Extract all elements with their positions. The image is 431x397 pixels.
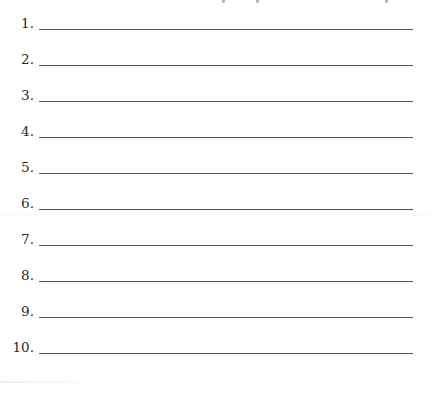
answer-blank-line[interactable] — [39, 245, 413, 246]
clipped-glyph — [222, 0, 225, 3]
answer-blank-line[interactable] — [39, 209, 413, 210]
answer-row: 9. — [0, 299, 431, 319]
answer-blank-line[interactable] — [39, 353, 413, 354]
answer-blank-line[interactable] — [39, 65, 413, 66]
item-number: 9. — [21, 303, 34, 319]
item-number: 10. — [13, 339, 34, 355]
item-number: 2. — [21, 51, 34, 67]
answer-row: 10. — [0, 335, 431, 355]
answer-row: 3. — [0, 83, 431, 103]
answer-row: 8. — [0, 263, 431, 283]
answer-blank-line[interactable] — [39, 281, 413, 282]
clipped-heading-text — [0, 0, 431, 6]
answer-blank-line[interactable] — [39, 173, 413, 174]
item-number: 7. — [21, 231, 34, 247]
answer-blank-line[interactable] — [39, 101, 413, 102]
answer-row: 4. — [0, 119, 431, 139]
page-seam — [0, 381, 100, 383]
answer-row: 5. — [0, 155, 431, 175]
item-number: 6. — [21, 195, 34, 211]
answer-row: 7. — [0, 227, 431, 247]
answer-row: 1. — [0, 11, 431, 31]
answer-row: 2. — [0, 47, 431, 67]
answer-blank-line[interactable] — [39, 317, 413, 318]
item-number: 8. — [21, 267, 34, 283]
answer-blank-line[interactable] — [39, 137, 413, 138]
clipped-glyph — [385, 0, 388, 3]
item-number: 5. — [21, 159, 34, 175]
item-number: 3. — [21, 87, 34, 103]
item-number: 4. — [21, 123, 34, 139]
clipped-glyph — [256, 0, 259, 3]
answer-blank-line[interactable] — [39, 29, 413, 30]
item-number: 1. — [21, 15, 34, 31]
answer-row: 6. — [0, 191, 431, 211]
page-seam — [0, 214, 431, 216]
